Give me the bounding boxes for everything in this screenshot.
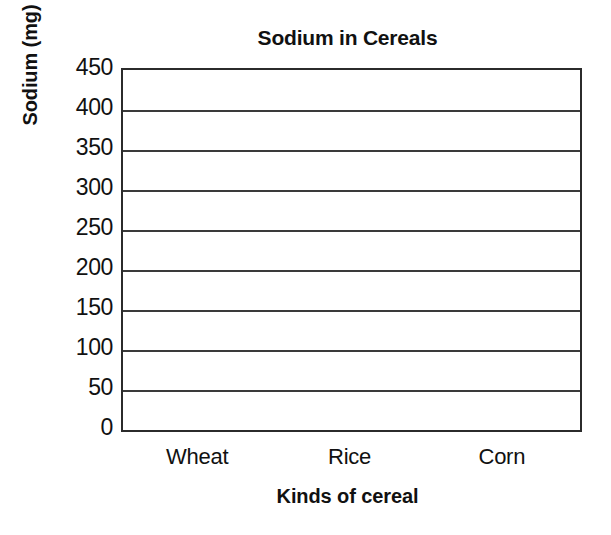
y-tick-label-150: 150 xyxy=(0,296,113,319)
y-tick-label-450: 450 xyxy=(0,56,113,79)
x-tick-label-rice: Rice xyxy=(328,444,371,470)
chart-title: Sodium in Cereals xyxy=(0,26,611,50)
y-tick-label-50: 50 xyxy=(0,376,113,399)
bars-layer xyxy=(123,70,580,430)
y-tick-label-0: 0 xyxy=(0,416,113,439)
x-axis-tick-labels: WheatRiceCorn xyxy=(121,444,582,472)
y-axis-tick-labels: 050100150200250300350400450 xyxy=(0,68,113,432)
x-tick-label-corn: Corn xyxy=(479,444,526,470)
y-tick-label-300: 300 xyxy=(0,176,113,199)
chart-container: Sodium in Cereals Sodium (mg) 0501001502… xyxy=(0,0,611,535)
x-tick-label-wheat: Wheat xyxy=(166,444,228,470)
y-tick-label-350: 350 xyxy=(0,136,113,159)
y-tick-label-200: 200 xyxy=(0,256,113,279)
y-tick-label-100: 100 xyxy=(0,336,113,359)
y-tick-label-250: 250 xyxy=(0,216,113,239)
y-tick-label-400: 400 xyxy=(0,96,113,119)
plot-area xyxy=(121,68,582,432)
x-axis-title: Kinds of cereal xyxy=(0,484,611,508)
